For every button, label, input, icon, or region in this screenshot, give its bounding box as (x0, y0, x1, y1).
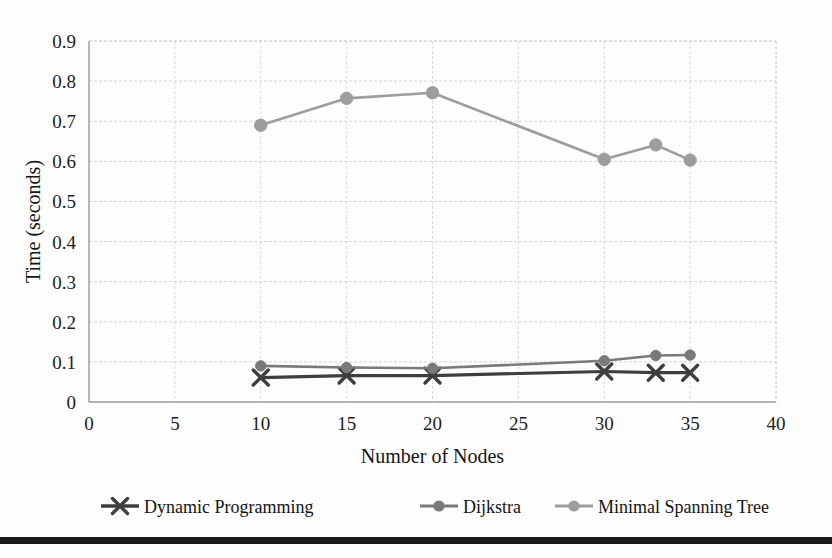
y-tick-label: 0.9 (52, 31, 76, 52)
chart-legend: Dynamic ProgrammingDijkstraMinimal Spann… (101, 497, 769, 517)
x-tick-label: 20 (423, 413, 442, 434)
x-tick-label: 40 (767, 413, 786, 434)
y-tick-label: 0.8 (52, 71, 76, 92)
y-axis-title: Time (seconds) (22, 160, 45, 283)
x-tick-label: 0 (84, 413, 94, 434)
x-tick-label: 30 (595, 413, 614, 434)
y-tick-label: 0 (67, 392, 77, 413)
legend-entry: Dijkstra (420, 497, 521, 517)
series-line (261, 372, 690, 378)
circle-marker-icon (685, 350, 695, 360)
data-series-group (253, 87, 697, 385)
chart-figure: 00.10.20.30.40.50.60.70.80.9051015202530… (0, 0, 832, 558)
circle-marker-icon (684, 154, 696, 166)
y-tick-label: 0.2 (52, 312, 76, 333)
x-tick-label: 15 (337, 413, 356, 434)
y-tick-label: 0.5 (52, 191, 76, 212)
y-axis-tick-labels: 00.10.20.30.40.50.60.70.80.9 (52, 31, 76, 413)
legend-entry: Minimal Spanning Tree (555, 497, 769, 517)
circle-marker-icon (433, 500, 444, 511)
y-tick-label: 0.7 (52, 111, 76, 132)
series-minimal-spanning-tree (255, 87, 697, 167)
y-tick-label: 0.3 (52, 272, 76, 293)
y-tick-label: 0.6 (52, 151, 76, 172)
circle-marker-icon (568, 500, 579, 511)
line-chart: 00.10.20.30.40.50.60.70.80.9051015202530… (0, 0, 832, 530)
circle-marker-icon (426, 87, 438, 99)
circle-marker-icon (598, 153, 610, 165)
x-axis-tick-labels: 0510152025303540 (84, 413, 785, 434)
y-tick-label: 0.1 (52, 352, 76, 373)
circle-marker-icon (650, 139, 662, 151)
x-axis-title: Number of Nodes (361, 445, 505, 467)
circle-marker-icon (256, 361, 266, 371)
circle-marker-icon (341, 362, 351, 372)
x-tick-label: 10 (251, 413, 270, 434)
circle-marker-icon (340, 92, 352, 104)
x-tick-label: 5 (170, 413, 180, 434)
legend-label: Dynamic Programming (144, 497, 313, 517)
circle-marker-icon (651, 350, 661, 360)
x-tick-label: 25 (509, 413, 528, 434)
circle-marker-icon (427, 363, 437, 373)
legend-label: Dijkstra (463, 497, 521, 517)
circle-marker-icon (255, 119, 267, 131)
legend-label: Minimal Spanning Tree (598, 497, 769, 517)
bottom-horizontal-rule (0, 537, 832, 544)
y-tick-label: 0.4 (52, 232, 76, 253)
series-line (261, 93, 690, 160)
x-tick-label: 35 (681, 413, 700, 434)
legend-entry: Dynamic Programming (101, 497, 313, 517)
circle-marker-icon (599, 355, 609, 365)
